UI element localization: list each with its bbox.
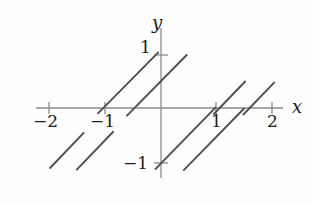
x-axis-label: x (292, 98, 302, 116)
segment-1 (50, 132, 85, 168)
segment-5 (155, 107, 216, 170)
axes-group (36, 28, 283, 178)
segment-3 (98, 52, 159, 114)
x-tick-label-minus-2: −2 (33, 113, 58, 130)
segment-4 (126, 55, 187, 117)
y-tick-label-minus-1: −1 (123, 155, 148, 172)
sawtooth-curve-group (50, 52, 275, 171)
segment-2 (76, 131, 113, 170)
y-axis-label: y (152, 14, 162, 32)
x-tick-label-minus-1: −1 (90, 113, 115, 130)
segment-7 (213, 81, 245, 114)
plot-canvas: x y −2 −1 1 2 1 −1 (0, 0, 313, 203)
y-tick-label-1: 1 (140, 39, 151, 56)
x-tick-label-1: 1 (211, 113, 222, 130)
x-tick-label-2: 2 (267, 113, 278, 130)
